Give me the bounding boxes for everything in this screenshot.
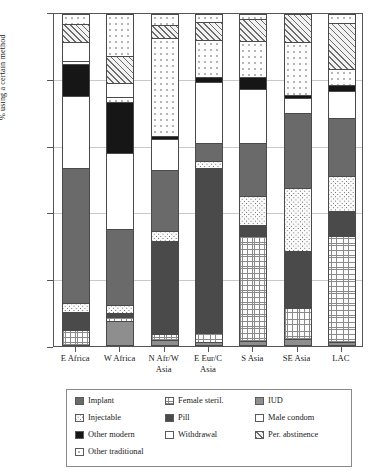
bar-segment[interactable]	[107, 84, 133, 98]
bar-segment[interactable]	[285, 309, 311, 341]
bar-segment[interactable]	[240, 15, 266, 20]
bar-segment[interactable]	[329, 343, 355, 345]
bar-column[interactable]	[239, 14, 267, 346]
bar-segment[interactable]	[63, 331, 89, 345]
bar-segment[interactable]	[240, 20, 266, 42]
bar-segment[interactable]	[107, 318, 133, 322]
bar-segment[interactable]	[152, 140, 178, 171]
bar-segment[interactable]	[152, 39, 178, 137]
legend-swatch-icon	[255, 397, 264, 405]
stacked-bar[interactable]	[151, 14, 179, 346]
stacked-bar[interactable]	[195, 14, 223, 346]
bar-segment[interactable]	[196, 83, 222, 144]
bar-segment[interactable]	[285, 340, 311, 345]
x-tick-mark	[341, 347, 342, 352]
bar-column[interactable]	[151, 14, 179, 346]
stacked-bar-chart: % using a certain method 020406080100 E …	[0, 0, 370, 474]
bar-segment[interactable]	[107, 103, 133, 154]
bar-segment[interactable]	[240, 42, 266, 78]
bar-segment[interactable]	[152, 335, 178, 341]
bar-segment[interactable]	[285, 114, 311, 189]
bar-segment[interactable]	[285, 96, 311, 99]
bar-segment[interactable]	[196, 78, 222, 83]
bar-segment[interactable]	[240, 144, 266, 197]
bar-segment[interactable]	[196, 41, 222, 77]
legend-item[interactable]: Per. abstinence	[255, 430, 318, 439]
bar-column[interactable]	[62, 14, 90, 346]
bar-segment[interactable]	[107, 15, 133, 57]
bar-segment[interactable]	[152, 15, 178, 26]
bar-segment[interactable]	[152, 26, 178, 39]
bar-segment[interactable]	[107, 314, 133, 318]
legend-item[interactable]: Male condom	[255, 413, 314, 422]
bar-segment[interactable]	[240, 237, 266, 342]
bar-segment[interactable]	[107, 230, 133, 307]
bar-segment[interactable]	[63, 304, 89, 312]
bar-segment[interactable]	[196, 15, 222, 23]
bar-segment[interactable]	[196, 162, 222, 170]
legend-swatch-icon	[75, 397, 84, 405]
bar-segment[interactable]	[107, 306, 133, 314]
bar-segment[interactable]	[329, 15, 355, 24]
bar-segment[interactable]	[329, 119, 355, 177]
legend-label: Implant	[88, 396, 114, 405]
legend-item[interactable]: IUD	[255, 396, 283, 405]
stacked-bar[interactable]	[328, 14, 356, 346]
stacked-bar[interactable]	[239, 14, 267, 346]
bar-segment[interactable]	[240, 342, 266, 345]
legend-item[interactable]: Female steril.	[165, 396, 224, 405]
bar-segment[interactable]	[152, 242, 178, 335]
bar-segment[interactable]	[63, 65, 89, 97]
bar-segment[interactable]	[63, 62, 89, 65]
bar-column[interactable]	[106, 14, 134, 346]
bar-segment[interactable]	[107, 57, 133, 84]
bar-segment[interactable]	[107, 322, 133, 345]
bar-segment[interactable]	[329, 212, 355, 237]
stacked-bar[interactable]	[62, 14, 90, 346]
bar-segment[interactable]	[285, 99, 311, 114]
bar-segment[interactable]	[152, 341, 178, 345]
bar-segment[interactable]	[329, 92, 355, 120]
legend-item[interactable]: Implant	[75, 396, 114, 405]
bar-segment[interactable]	[196, 334, 222, 343]
bar-segment[interactable]	[63, 313, 89, 331]
bar-segment[interactable]	[63, 25, 89, 43]
bar-segment[interactable]	[63, 43, 89, 62]
bar-segment[interactable]	[329, 70, 355, 87]
bar-segment[interactable]	[240, 90, 266, 143]
bar-column[interactable]	[284, 14, 312, 346]
bar-segment[interactable]	[152, 137, 178, 140]
bar-segment[interactable]	[196, 144, 222, 162]
legend-item[interactable]: Injectable	[75, 413, 121, 422]
bar-segment[interactable]	[285, 43, 311, 96]
legend-item[interactable]: Withdrawal	[165, 430, 217, 439]
stacked-bar[interactable]	[106, 14, 134, 346]
bar-segment[interactable]	[240, 78, 266, 91]
x-tick-label-line: Asia	[178, 364, 238, 375]
bar-segment[interactable]	[63, 15, 89, 25]
bar-segment[interactable]	[329, 177, 355, 212]
bar-segment[interactable]	[285, 252, 311, 309]
bar-segment[interactable]	[107, 154, 133, 229]
legend-item[interactable]: Other traditional	[75, 447, 144, 456]
bar-segment[interactable]	[196, 169, 222, 333]
bar-segment[interactable]	[329, 24, 355, 70]
bar-column[interactable]	[328, 14, 356, 346]
bar-segment[interactable]	[196, 343, 222, 345]
bar-segment[interactable]	[240, 226, 266, 237]
legend-item[interactable]: Other modern	[75, 430, 135, 439]
bar-segment[interactable]	[63, 97, 89, 169]
legend-item[interactable]: Pill	[165, 413, 190, 422]
bar-segment[interactable]	[152, 171, 178, 232]
bar-segment[interactable]	[63, 169, 89, 305]
bar-segment[interactable]	[240, 197, 266, 227]
bar-column[interactable]	[195, 14, 223, 346]
bar-segment[interactable]	[285, 15, 311, 43]
bar-segment[interactable]	[107, 98, 133, 103]
bar-segment[interactable]	[329, 237, 355, 343]
bar-segment[interactable]	[329, 86, 355, 91]
bar-segment[interactable]	[196, 23, 222, 41]
stacked-bar[interactable]	[284, 14, 312, 346]
bar-segment[interactable]	[152, 232, 178, 242]
bar-segment[interactable]	[285, 189, 311, 252]
